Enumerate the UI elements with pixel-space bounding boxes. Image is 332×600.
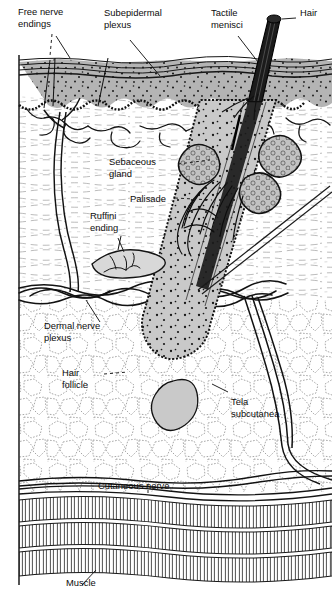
label-free-nerve-endings-line2: endings <box>18 18 51 29</box>
label-ruffini-ending: Ruffini ending <box>90 210 118 233</box>
label-palisade: Palisade <box>130 193 166 204</box>
label-muscle-line1: Muscle <box>66 577 96 588</box>
label-subepidermal-plexus-line1: Subepidermal <box>104 7 162 18</box>
label-hair-follicle-line2: follicle <box>62 379 88 390</box>
label-sebaceous-gland-line1: Sebaceous <box>109 156 156 167</box>
label-tela-subcutanea-line2: subcutanea <box>231 408 280 419</box>
label-muscle: Muscle <box>66 577 96 588</box>
label-sebaceous-gland-line2: gland <box>109 168 132 179</box>
label-subepidermal-plexus-line2: plexus <box>104 19 131 30</box>
skin-cross-section-figure: Free nerve endings Subepidermal plexus T… <box>0 0 332 600</box>
muscle-layer <box>19 492 332 585</box>
label-palisade-line1: Palisade <box>130 193 166 204</box>
label-hair: Hair <box>300 7 317 18</box>
label-tactile-menisci-line1: Tactile <box>211 7 238 18</box>
label-hair-line1: Hair <box>300 7 317 18</box>
label-cutaneous-nerve: Cutaneous nerve <box>98 480 169 491</box>
label-free-nerve-endings-line1: Free nerve <box>18 6 63 17</box>
label-hair-follicle-line1: Hair <box>62 367 79 378</box>
sebaceous-gland-left <box>178 144 219 184</box>
label-cutaneous-nerve-line1: Cutaneous nerve <box>98 480 169 491</box>
label-ruffini-ending-line2: ending <box>90 222 118 233</box>
label-dermal-nerve-plexus-line2: plexus <box>44 332 71 343</box>
label-tela-subcutanea-line1: Tela <box>231 396 249 407</box>
anatomy-illustration: Free nerve endings Subepidermal plexus T… <box>0 0 332 600</box>
label-ruffini-ending-line1: Ruffini <box>90 210 116 221</box>
label-tactile-menisci-line2: menisci <box>211 19 243 30</box>
label-dermal-nerve-plexus-line1: Dermal nerve <box>44 320 100 331</box>
